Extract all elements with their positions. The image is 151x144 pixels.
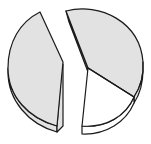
left-slice-top: [8, 12, 63, 126]
exploded-pie-diagram: [0, 0, 151, 144]
left-slice: [8, 12, 63, 132]
